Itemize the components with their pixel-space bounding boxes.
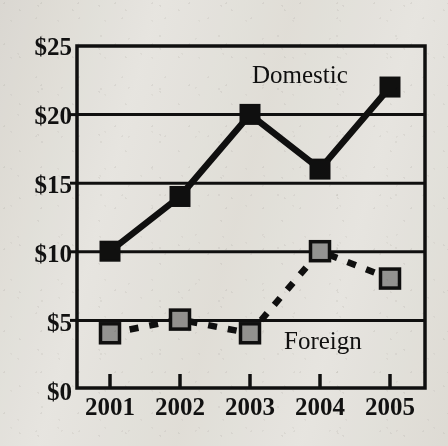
- data-point-domestic-2001: [101, 242, 120, 261]
- data-point-foreign-2001: [101, 324, 120, 343]
- plot-area: [0, 0, 448, 446]
- gridlines: [77, 115, 425, 321]
- data-point-foreign-2003: [241, 324, 260, 343]
- data-point-foreign-2004: [311, 242, 330, 261]
- line-chart: ........ ... .. ....... ... $25 $20 $15 …: [0, 0, 448, 446]
- data-point-domestic-2004: [311, 160, 330, 179]
- data-point-domestic-2002: [171, 187, 190, 206]
- data-point-foreign-2002: [171, 310, 190, 329]
- series-markers-domestic: [101, 78, 400, 261]
- data-point-domestic-2005: [381, 78, 400, 97]
- series-markers-foreign: [101, 242, 400, 343]
- data-point-domestic-2003: [241, 105, 260, 124]
- x-axis-ticks: [110, 374, 390, 388]
- data-point-foreign-2005: [381, 269, 400, 288]
